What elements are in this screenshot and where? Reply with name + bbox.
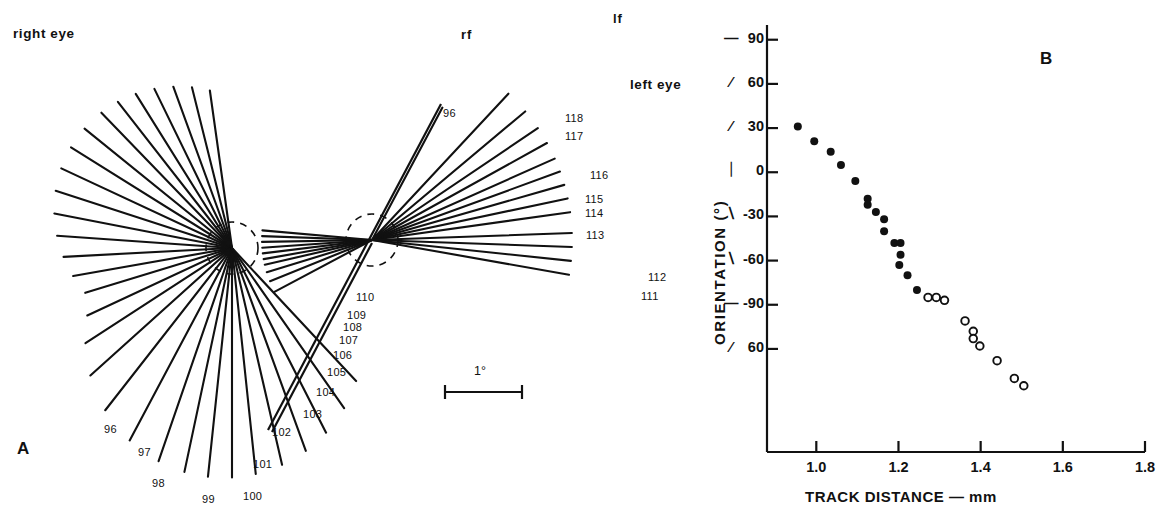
scale-bar xyxy=(445,385,522,399)
data-point-filled xyxy=(810,137,818,145)
unit-label-105: 105 xyxy=(327,367,346,378)
unit-label-116: 116 xyxy=(590,170,608,181)
unit-label-114: 114 xyxy=(585,208,603,219)
y-tick-orientation-glyph-2: ∕ xyxy=(724,119,738,134)
data-point-filled xyxy=(864,201,872,209)
unit-label-103: 103 xyxy=(303,409,322,420)
data-point-open xyxy=(941,297,949,305)
receptive-field-bar xyxy=(87,248,232,315)
y-tick-label-5: -60 xyxy=(738,252,764,267)
x-tick-label-3: 1.6 xyxy=(1043,460,1083,475)
x-tick-label-4: 1.8 xyxy=(1125,460,1157,475)
scale-bar-label: 1° xyxy=(474,365,486,378)
receptive-field-bar xyxy=(232,248,356,381)
y-tick-label-1: 60 xyxy=(738,75,764,90)
data-point-filled xyxy=(880,227,888,235)
data-point-open xyxy=(1020,382,1028,390)
unit-label-118: 118 xyxy=(565,113,583,124)
x-tick-label-0: 1.0 xyxy=(796,460,836,475)
unit-label-100: 100 xyxy=(243,491,262,502)
data-point-filled xyxy=(851,177,859,185)
unit-label-115: 115 xyxy=(585,194,603,205)
data-point-filled xyxy=(897,251,905,259)
y-tick-label-6: -90 xyxy=(738,296,764,311)
unit-label-107: 107 xyxy=(339,335,358,346)
data-point-filled xyxy=(837,161,845,169)
unit-label-109: 109 xyxy=(347,310,366,321)
panel-a: right eye left eye rf lf A 1° 9697989910… xyxy=(0,0,690,525)
data-point-filled xyxy=(913,286,921,294)
data-point-open xyxy=(932,294,940,302)
unit-label-97: 97 xyxy=(138,447,151,458)
data-point-filled xyxy=(872,208,880,216)
left-eye-receptive-field-fan xyxy=(262,94,572,292)
unit-96-track-line xyxy=(268,104,441,430)
lf-label: lf xyxy=(613,12,623,25)
right-eye-label: right eye xyxy=(13,27,75,41)
data-point-filled xyxy=(895,261,903,269)
unit-label-102: 102 xyxy=(272,427,291,438)
data-point-open xyxy=(969,335,977,343)
receptive-field-bar xyxy=(105,248,232,410)
series-open xyxy=(924,294,1027,390)
data-point-filled xyxy=(897,239,905,247)
data-point-filled xyxy=(904,271,912,279)
unit-label-106: 106 xyxy=(333,350,352,361)
data-point-open xyxy=(993,357,1001,365)
unit-label-99: 99 xyxy=(202,494,215,505)
receptive-field-bar xyxy=(130,248,232,440)
x-tick-label-1: 1.2 xyxy=(878,460,918,475)
rf-label: rf xyxy=(461,28,472,41)
data-point-filled xyxy=(794,123,802,131)
unit-label-98: 98 xyxy=(152,478,165,489)
unit-label-117: 117 xyxy=(565,131,583,142)
left-eye-label: left eye xyxy=(630,78,681,92)
figure-root: right eye left eye rf lf A 1° 9697989910… xyxy=(0,0,1157,525)
panel-b: B —90∕60∕30｜0∖-30∖-60—-90∕601.01.21.41.6… xyxy=(690,0,1157,525)
receptive-field-bar xyxy=(232,248,326,433)
series-filled xyxy=(794,123,921,294)
panel-b-letter: B xyxy=(1040,50,1052,67)
y-tick-orientation-glyph-3: ｜ xyxy=(724,163,738,178)
y-tick-label-0: 90 xyxy=(738,31,764,46)
data-point-open xyxy=(961,317,969,325)
receptive-field-bar xyxy=(372,185,564,240)
unit-label-96: 96 xyxy=(104,424,117,435)
receptive-field-bar xyxy=(184,248,232,472)
data-point-filled xyxy=(827,148,835,156)
panel-a-drawing xyxy=(0,0,690,525)
unit-label-108: 108 xyxy=(343,322,362,333)
data-point-open xyxy=(1011,375,1019,383)
panel-a-letter: A xyxy=(17,440,29,457)
y-tick-label-4: -30 xyxy=(738,207,764,222)
x-axis-title: TRACK DISTANCE — mm xyxy=(805,489,997,504)
data-point-open xyxy=(924,294,932,302)
y-tick-label-3: 0 xyxy=(738,163,764,178)
unit-label-113: 113 xyxy=(586,230,604,241)
unit-label-110: 110 xyxy=(356,292,374,303)
y-tick-label-2: 30 xyxy=(738,119,764,134)
y-tick-orientation-glyph-0: — xyxy=(724,31,738,46)
y-tick-orientation-glyph-1: ∕ xyxy=(724,75,738,90)
unit-label-101: 101 xyxy=(253,459,272,470)
x-tick-label-2: 1.4 xyxy=(961,460,1001,475)
unit-label-96b: 96 xyxy=(443,108,456,119)
y-tick-label-7: 60 xyxy=(738,340,764,355)
unit-label-112: 112 xyxy=(648,272,666,283)
data-point-open xyxy=(976,342,984,350)
unit-label-104: 104 xyxy=(316,387,335,398)
unit-label-111: 111 xyxy=(641,291,659,302)
y-axis-title: ORIENTATION (°) xyxy=(712,200,727,345)
data-point-filled xyxy=(880,215,888,223)
receptive-field-bar xyxy=(372,94,508,240)
